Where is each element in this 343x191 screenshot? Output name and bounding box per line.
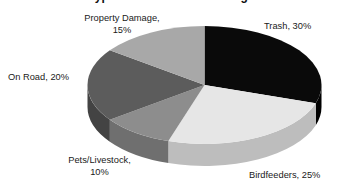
label-property-damage-line1: Property Damage, xyxy=(84,13,159,23)
pie-top-faces xyxy=(88,26,322,144)
pie-chart-figure: Types of Black Bear Damage Property Dama… xyxy=(0,0,343,191)
label-on-road: On Road, 20% xyxy=(8,72,93,84)
label-pets-livestock-line2: 10% xyxy=(90,167,109,177)
label-trash: Trash, 30% xyxy=(264,21,342,33)
label-property-damage-line2: 15% xyxy=(113,25,132,35)
label-property-damage: Property Damage, 15% xyxy=(62,13,182,36)
label-birdfeeders: Birdfeeders, 25% xyxy=(249,170,343,182)
label-pets-livestock: Pets/Livestock, 10% xyxy=(47,155,152,178)
label-pets-livestock-line1: Pets/Livestock, xyxy=(68,155,131,165)
